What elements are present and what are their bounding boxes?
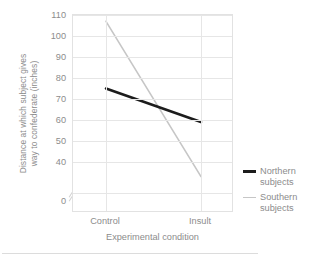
gridline-y-50	[73, 141, 232, 142]
footer-divider	[2, 253, 258, 254]
gridline-y-110	[73, 15, 232, 16]
chart-figure: Distance at which subject gives way to c…	[0, 0, 322, 262]
y-tick-label-100: 100	[26, 31, 66, 41]
gridline-y-80	[73, 78, 232, 79]
y-tick-label-50: 50	[26, 136, 66, 146]
legend-item-southern: Southern subjects	[243, 192, 322, 213]
gridline-y-90	[73, 57, 232, 58]
y-tick-label-110: 110	[26, 10, 66, 20]
gridline-y-70	[73, 99, 232, 100]
x-axis-title: Experimental condition	[72, 232, 233, 242]
legend-swatch-northern-icon	[243, 170, 256, 173]
y-tick-label-80: 80	[26, 73, 66, 83]
gridline-x-control	[106, 15, 107, 211]
chart-legend: Northern subjects Southern subjects	[243, 166, 322, 218]
legend-swatch-southern-icon	[243, 197, 256, 198]
gridline-y-break	[73, 193, 232, 194]
y-tick-label-70: 70	[26, 94, 66, 104]
y-tick-label-40: 40	[26, 157, 66, 167]
legend-label-northern: Northern subjects	[260, 166, 322, 187]
y-tick-label-60: 60	[26, 115, 66, 125]
gridline-y-60	[73, 120, 232, 121]
y-axis-title: Distance at which subject gives way to c…	[18, 14, 39, 214]
gridline-x-insult	[201, 15, 202, 211]
gridline-y-40	[73, 162, 232, 163]
y-tick-label-90: 90	[26, 52, 66, 62]
legend-item-northern: Northern subjects	[243, 166, 322, 187]
series-line-northern	[106, 89, 201, 123]
plot-area	[72, 14, 233, 212]
y-tick-label-0: 0	[26, 196, 66, 206]
x-tick-label-control: Control	[65, 216, 145, 226]
series-lines	[73, 15, 234, 213]
gridline-y-100	[73, 36, 232, 37]
legend-label-southern: Southern subjects	[260, 192, 322, 213]
x-tick-label-insult: Insult	[160, 216, 240, 226]
